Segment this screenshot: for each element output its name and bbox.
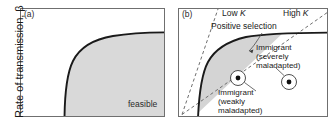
immigrant-severe-line3: maladapted) [256,62,300,71]
low-k-label: Low K [222,9,246,18]
high-k-label-prefix: High [283,8,303,18]
high-k-label-symbol: K [303,8,309,18]
panel-a-tag: (a) [24,10,34,19]
low-k-label-prefix: Low [222,8,240,18]
immigrant-weak-line3: maladapted) [218,107,262,116]
immigrant-weak-marker-dot [236,76,241,81]
panel-b-tag: (b) [182,10,192,19]
positive-selection-label: Positive selection [211,22,277,31]
figure-container: Rate of transmission, β (a) feasible (b)… [0,0,328,126]
feasible-label: feasible [128,100,157,109]
low-k-label-symbol: K [240,8,246,18]
immigrant-severely-maladapted-label: Immigrant (severely maladapted) [256,44,300,71]
immigrant-weakly-maladapted-label: Immigrant (weakly maladapted) [218,89,262,116]
y-axis-label: Rate of transmission, β [14,5,26,118]
high-k-label: High K [283,9,309,18]
immigrant-severe-marker-dot [287,80,292,85]
